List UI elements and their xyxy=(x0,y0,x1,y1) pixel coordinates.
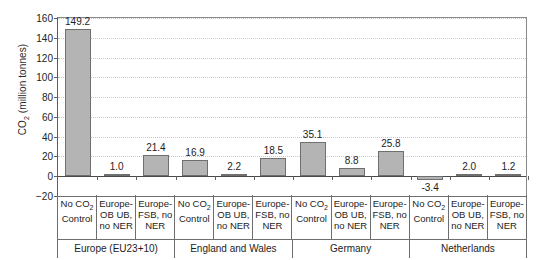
x-axis-group-label: Europe (EU23+10) xyxy=(57,240,174,258)
bar[interactable] xyxy=(378,151,404,177)
bar-value-label: 35.1 xyxy=(303,129,322,140)
x-axis-category-cell: No CO2Control xyxy=(174,195,213,239)
x-tick-mark xyxy=(528,176,529,180)
bar-slot: -3.4 xyxy=(411,18,450,195)
bar[interactable] xyxy=(417,176,443,179)
bar-value-label: 2.2 xyxy=(227,161,241,172)
bar[interactable] xyxy=(65,29,91,177)
bar-value-label: -3.4 xyxy=(421,182,438,193)
x-axis-category-cell: Europe-OB UB,no NER xyxy=(448,195,487,239)
y-tick-label: 120 xyxy=(36,52,53,63)
bar-slot: 18.5 xyxy=(254,18,293,195)
bar-value-label: 16.9 xyxy=(185,147,204,158)
y-tick-label: 60 xyxy=(42,111,53,122)
x-axis-category-cell: No CO2Control xyxy=(291,195,330,239)
y-tick-label: −20 xyxy=(36,191,53,202)
bar-slot: 25.8 xyxy=(371,18,410,195)
bar-slot: 2.2 xyxy=(215,18,254,195)
x-axis-category-cell: Europe-FSB, noNER xyxy=(370,195,409,239)
y-tick-label: 100 xyxy=(36,72,53,83)
bar-value-label: 1.0 xyxy=(110,161,124,172)
bar-value-label: 2.0 xyxy=(462,161,476,172)
bar-slot: 35.1 xyxy=(293,18,332,195)
category-label-table: No CO2ControlEurope-OB UB,no NEREurope-F… xyxy=(57,195,527,257)
bar-value-label: 21.4 xyxy=(146,142,165,153)
bar-slot: 1.0 xyxy=(97,18,136,195)
bar[interactable] xyxy=(300,142,326,177)
x-axis-category-cell: Europe-FSB, noNER xyxy=(252,195,291,239)
bar[interactable] xyxy=(104,174,130,177)
bar-value-label: 18.5 xyxy=(264,145,283,156)
bar-slot: 16.9 xyxy=(176,18,215,195)
bar-slot: 2.0 xyxy=(450,18,489,195)
bar[interactable] xyxy=(143,155,169,176)
bar-value-label: 149.2 xyxy=(65,16,90,27)
bar-value-label: 25.8 xyxy=(381,138,400,149)
bar-value-label: 1.2 xyxy=(501,161,515,172)
bar[interactable] xyxy=(339,168,365,177)
bar-slot: 149.2 xyxy=(58,18,97,195)
bar-slot: 8.8 xyxy=(332,18,371,195)
y-axis-title: CO2 (million tonnes) xyxy=(17,20,30,160)
x-axis-category-cell: Europe-OB UB,no NER xyxy=(96,195,135,239)
x-axis-group-label: Netherlands xyxy=(409,240,527,258)
bar[interactable] xyxy=(456,174,482,177)
bar-slot: 21.4 xyxy=(136,18,175,195)
bar-chart: CO2 (million tonnes) −200204060801001201… xyxy=(0,0,542,260)
category-row: No CO2ControlEurope-OB UB,no NEREurope-F… xyxy=(57,195,527,239)
x-axis-category-cell: Europe-OB UB,no NER xyxy=(331,195,370,239)
y-tick-label: 140 xyxy=(36,32,53,43)
x-axis-group-label: England and Wales xyxy=(174,240,291,258)
bar[interactable] xyxy=(221,174,247,177)
y-tick-label: 40 xyxy=(42,131,53,142)
x-axis-category-cell: Europe-FSB, noNER xyxy=(487,195,527,239)
y-tick-label: 160 xyxy=(36,13,53,24)
x-axis-group-label: Germany xyxy=(292,240,409,258)
y-tick-label: 20 xyxy=(42,151,53,162)
x-axis-category-cell: Europe-OB UB,no NER xyxy=(213,195,252,239)
x-axis-category-cell: No CO2Control xyxy=(57,195,96,239)
bar-value-label: 8.8 xyxy=(345,155,359,166)
bar[interactable] xyxy=(495,174,521,177)
bar-series: 149.21.021.416.92.218.535.18.825.8-3.42.… xyxy=(58,18,526,195)
group-row: Europe (EU23+10)England and WalesGermany… xyxy=(57,239,527,258)
x-axis-category-cell: No CO2Control xyxy=(409,195,448,239)
y-tick-label: 80 xyxy=(42,92,53,103)
bar-slot: 1.2 xyxy=(489,18,528,195)
y-tick-label: 0 xyxy=(47,171,53,182)
bar[interactable] xyxy=(260,158,286,176)
bar[interactable] xyxy=(182,160,208,177)
x-axis-category-cell: Europe-FSB, noNER xyxy=(135,195,174,239)
plot-area: −20020406080100120140160 149.21.021.416.… xyxy=(57,17,527,195)
